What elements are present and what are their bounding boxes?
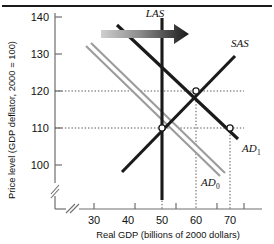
- x-tick-label-50: 50: [156, 214, 168, 226]
- curve-label-las: LAS: [145, 7, 165, 19]
- x-tick-label-40: 40: [122, 214, 134, 226]
- curve-label-ad0-subscript: 0: [216, 182, 220, 191]
- aggregate-demand-supply-chart: 140 130 120 110 100 30 40 50 60 70 Real …: [0, 0, 274, 244]
- y-tick-label-120: 120: [31, 85, 49, 97]
- equilibrium-point-initial: [159, 125, 165, 131]
- curve-label-ad0: AD: [200, 176, 216, 188]
- x-tick-label-30: 30: [88, 214, 100, 226]
- x-axis-title: Real GDP (billions of 2000 dollars): [96, 229, 240, 240]
- equilibrium-point-ad1-reference: [227, 125, 233, 131]
- y-axis-title: Price level (GDP deflator, 2000 = 100): [6, 41, 17, 199]
- y-tick-label-100: 100: [31, 159, 49, 171]
- curve-label-sas: SAS: [231, 37, 249, 49]
- y-tick-label-130: 130: [31, 48, 49, 60]
- y-tick-label-110: 110: [31, 122, 49, 134]
- equilibrium-point-new: [193, 88, 199, 94]
- x-tick-label-60: 60: [190, 214, 202, 226]
- x-tick-label-70: 70: [224, 214, 236, 226]
- curve-label-ad1-subscript: 1: [257, 148, 261, 157]
- chart-figure: 140 130 120 110 100 30 40 50 60 70 Real …: [0, 0, 274, 244]
- curve-label-ad1: AD: [241, 142, 257, 154]
- y-tick-label-140: 140: [31, 11, 49, 23]
